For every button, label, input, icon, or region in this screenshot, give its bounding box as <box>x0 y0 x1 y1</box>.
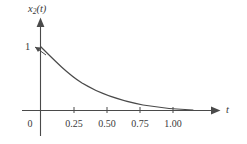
plot-canvas <box>0 0 247 144</box>
x-tick-label-100: 1.00 <box>158 119 188 129</box>
y-axis-title-variable: x <box>28 3 33 14</box>
y-axis-title-subscript: 2 <box>33 7 37 16</box>
x-axis-arrow-icon <box>211 107 221 115</box>
x-tick-label-origin: 0 <box>25 119 35 129</box>
y-value-label: 1 <box>25 42 30 53</box>
figure-container: x2(t) 1 0 0.25 0.50 0.75 1.00 t <box>0 0 247 144</box>
decay-curve <box>41 47 194 111</box>
y-axis-title-argument: (t) <box>36 3 46 14</box>
x-tick-label-075: 0.75 <box>125 119 155 129</box>
x-tick-label-025: 0.25 <box>59 119 89 129</box>
x-tick-label-050: 0.50 <box>92 119 122 129</box>
x-axis-title: t <box>226 105 229 116</box>
y-axis-arrow-icon <box>37 18 45 28</box>
y-axis-title: x2(t) <box>28 4 46 15</box>
